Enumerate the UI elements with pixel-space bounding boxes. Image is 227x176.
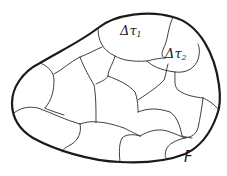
- region-label-F: F: [184, 150, 193, 165]
- subscript: 1: [137, 30, 142, 39]
- delta-tau-symbol: Δτ: [165, 46, 182, 61]
- cell-boundaries: [14, 17, 219, 162]
- cell-label-delta-tau-1: Δτ1: [120, 24, 142, 39]
- cell-label-delta-tau-2: Δτ2: [165, 47, 187, 62]
- subscript: 2: [182, 53, 187, 62]
- delta-tau-symbol: Δτ: [120, 23, 137, 38]
- region-boundary: [12, 14, 220, 163]
